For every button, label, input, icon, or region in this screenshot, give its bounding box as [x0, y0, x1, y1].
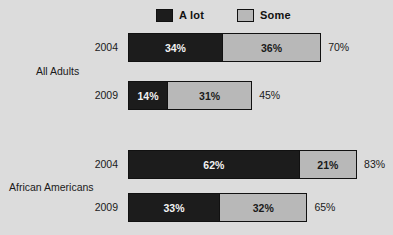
stacked-bar: 14% 31%	[128, 81, 252, 110]
bar-segment-value: 36%	[261, 42, 282, 54]
bar-segment-a-lot: 14%	[129, 82, 167, 109]
stacked-bar-chart: A lot Some All Adults African Americans …	[0, 0, 393, 235]
row-total-label: 45%	[259, 89, 280, 101]
legend-item-some: Some	[237, 7, 291, 23]
stacked-bar: 33% 32%	[128, 193, 307, 222]
group-label-all-adults: All Adults	[36, 65, 79, 77]
bar-segment-value: 34%	[165, 42, 186, 54]
row-year-label: 2009	[95, 89, 118, 101]
bar-segment-some: 32%	[219, 194, 306, 221]
legend-swatch-dark-icon	[156, 9, 173, 22]
row-total-label: 65%	[314, 201, 335, 213]
stacked-bar: 62% 21%	[128, 150, 357, 179]
row-total-label: 70%	[328, 41, 349, 53]
legend-swatch-light-icon	[237, 9, 254, 22]
bar-segment-a-lot: 62%	[129, 151, 299, 178]
group-label-african-americans: African Americans	[9, 181, 94, 193]
row-year-label: 2004	[95, 41, 118, 53]
bar-segment-some: 21%	[299, 151, 356, 178]
bar-segment-a-lot: 34%	[129, 34, 222, 61]
legend-label-some: Some	[260, 9, 291, 21]
bar-segment-some: 31%	[167, 82, 251, 109]
bar-segment-value: 21%	[317, 159, 338, 171]
bar-segment-value: 32%	[253, 202, 274, 214]
bar-segment-value: 62%	[203, 159, 224, 171]
bar-segment-value: 31%	[199, 90, 220, 102]
row-total-label: 83%	[364, 158, 385, 170]
chart-legend: A lot Some	[0, 7, 393, 23]
legend-label-a-lot: A lot	[179, 9, 204, 21]
bar-segment-some: 36%	[222, 34, 320, 61]
stacked-bar: 34% 36%	[128, 33, 321, 62]
row-year-label: 2004	[95, 158, 118, 170]
bar-segment-value: 14%	[137, 90, 158, 102]
bar-segment-value: 33%	[164, 202, 185, 214]
row-year-label: 2009	[95, 201, 118, 213]
bar-segment-a-lot: 33%	[129, 194, 219, 221]
legend-item-a-lot: A lot	[156, 7, 204, 23]
